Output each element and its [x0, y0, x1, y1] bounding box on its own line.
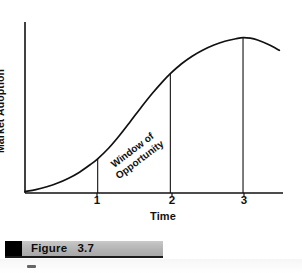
figure-container: Market Adoption Time 1 2 3 Window of Opp…	[0, 0, 302, 273]
figure-caption-bar: Figure 3.7	[5, 241, 163, 258]
x-tick-label-2: 2	[169, 194, 175, 206]
scan-speck-artifact	[27, 265, 36, 268]
s-curve-chart: Market Adoption Time 1 2 3 Window of Opp…	[0, 0, 302, 232]
market-adoption-curve	[25, 38, 279, 192]
y-axis-title: Market Adoption	[0, 69, 6, 153]
caption-underline-rule	[5, 256, 163, 258]
figure-caption-text: Figure 3.7	[31, 241, 94, 256]
scan-haze	[0, 259, 302, 273]
caption-square-marker	[5, 241, 22, 256]
x-tick-label-3: 3	[241, 194, 247, 206]
chart-plot-svg	[0, 0, 302, 232]
x-tick-label-1: 1	[94, 194, 100, 206]
x-axis-title: Time	[150, 210, 176, 222]
